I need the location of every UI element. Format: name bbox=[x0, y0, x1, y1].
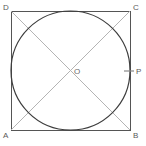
vertex-label-b: B bbox=[133, 132, 138, 140]
vertex-label-a: A bbox=[3, 132, 8, 140]
center-label-o: O bbox=[74, 68, 80, 76]
vertex-label-d: D bbox=[3, 4, 9, 12]
geometry-canvas bbox=[0, 0, 146, 146]
geometry-figure: D C A B O P bbox=[0, 0, 146, 146]
vertex-label-c: C bbox=[133, 4, 139, 12]
point-label-p: P bbox=[136, 68, 141, 76]
